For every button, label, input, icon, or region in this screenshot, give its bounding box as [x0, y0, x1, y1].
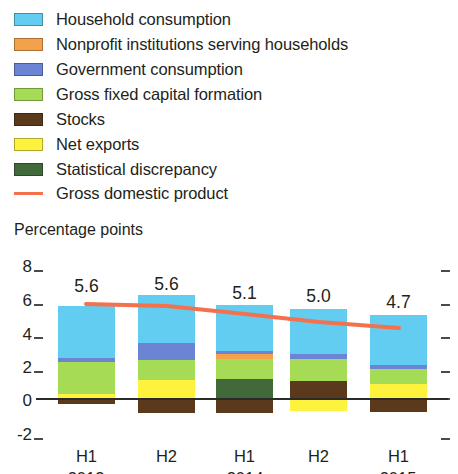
- y-tick-dash-4: [34, 337, 43, 339]
- legend-item-label: Household consumption: [56, 11, 231, 28]
- legend-item-household-consumption: Household consumption: [14, 8, 231, 30]
- bar-segment-household-consumption: [290, 309, 347, 354]
- bar-value-label-h2-2014: 5.0: [290, 288, 347, 306]
- legend-item-label: Statistical discrepancy: [56, 161, 217, 178]
- y-tick-dash-right-4: [441, 337, 450, 339]
- x-tick-label-h2-2014: H2: [290, 448, 347, 465]
- x-tick-label-h2-2013: H2: [138, 448, 195, 465]
- legend-item-gross-fixed-capital-formation: Gross fixed capital formation: [14, 83, 262, 105]
- bar-segment-net-exports: [138, 380, 195, 398]
- y-tick-label-8: 8: [4, 258, 32, 275]
- bar-value-label-h1-2014: 5.1: [216, 285, 273, 303]
- legend-item-statistical-discrepancy: Statistical discrepancy: [14, 158, 217, 180]
- legend-item-stocks: Stocks: [14, 108, 105, 130]
- bar-segment-net-exports: [370, 384, 427, 398]
- bar-value-label-h1-2013: 5.6: [58, 278, 115, 296]
- legend-item-net-exports: Net exports: [14, 133, 139, 155]
- plot-area: 8 6 4 2 0 -2: [0, 248, 458, 474]
- bar-segment-stocks: [370, 398, 427, 412]
- y-tick-dash-2: [34, 371, 43, 373]
- legend-swatch-icon: [14, 63, 43, 76]
- bar-segment-net-exports: [290, 398, 347, 411]
- y-tick-dash-8: [34, 270, 43, 272]
- legend-swatch-icon: [14, 88, 43, 101]
- bar-segment-household-consumption: [138, 295, 195, 343]
- legend-swatch-icon: [14, 138, 43, 151]
- legend-item-label: Stocks: [56, 111, 105, 128]
- y-tick-label-2: 2: [4, 359, 32, 376]
- chart-legend: Household consumption Nonprofit institut…: [0, 0, 458, 205]
- legend-item-label: Net exports: [56, 136, 139, 153]
- x-tick-label-h1-2014: H1: [216, 448, 273, 465]
- bar-segment-gross-fixed-capital-formation: [138, 360, 195, 380]
- legend-item-government-consumption: Government consumption: [14, 58, 243, 80]
- y-tick-dash-minus-2: [34, 438, 43, 440]
- legend-item-label: Government consumption: [56, 61, 243, 78]
- bar-segment-stocks: [216, 398, 273, 413]
- bar-segment-stocks: [290, 381, 347, 398]
- legend-swatch-icon: [14, 163, 43, 176]
- bar-stack-h2-2014: [290, 248, 347, 474]
- x-group-label-2013: 2013: [46, 470, 126, 474]
- y-tick-label-0: 0: [4, 392, 32, 409]
- bar-segment-household-consumption: [58, 306, 115, 358]
- y-axis-title: Percentage points: [14, 222, 143, 238]
- bar-segment-gross-fixed-capital-formation: [216, 359, 273, 379]
- y-tick-label-6: 6: [4, 292, 32, 309]
- bar-stack-h1-2015: [370, 248, 427, 474]
- legend-swatch-icon: [14, 113, 43, 126]
- bar-segment-household-consumption: [216, 305, 273, 351]
- x-tick-label-h1-2013: H1: [58, 448, 115, 465]
- chart-figure: Household consumption Nonprofit institut…: [0, 0, 458, 474]
- legend-item-nonprofit-institutions: Nonprofit institutions serving household…: [14, 33, 348, 55]
- y-tick-label-minus-2: -2: [0, 426, 32, 443]
- bar-segment-gross-fixed-capital-formation: [370, 369, 427, 384]
- bar-value-label-h1-2015: 4.7: [370, 294, 427, 312]
- y-tick-label-4: 4: [4, 326, 32, 343]
- x-tick-label-h1-2015: H1: [370, 448, 427, 465]
- y-tick-dash-6: [34, 304, 43, 306]
- zero-axis-line: [36, 398, 448, 400]
- bar-segment-household-consumption: [370, 315, 427, 365]
- y-tick-dash-right-2: [441, 371, 450, 373]
- bar-segment-gross-fixed-capital-formation: [290, 359, 347, 381]
- bar-segment-stocks: [138, 398, 195, 413]
- y-tick-dash-right-6: [441, 304, 450, 306]
- y-tick-dash-right-minus-2: [441, 438, 450, 440]
- x-group-label-2014: 2014: [205, 470, 285, 474]
- legend-item-gross-domestic-product: Gross domestic product: [14, 182, 228, 204]
- x-group-label-2015: 2015: [358, 470, 438, 474]
- bar-value-label-h2-2013: 5.6: [138, 276, 195, 294]
- bar-stack-h1-2014: [216, 248, 273, 474]
- legend-swatch-icon: [14, 38, 43, 51]
- legend-item-label: Nonprofit institutions serving household…: [56, 36, 348, 53]
- bar-segment-government-consumption: [138, 343, 195, 360]
- legend-item-label: Gross domestic product: [56, 185, 228, 202]
- y-tick-dash-right-8: [441, 270, 450, 272]
- legend-swatch-icon: [14, 13, 43, 26]
- legend-line-icon: [14, 187, 43, 200]
- legend-item-label: Gross fixed capital formation: [56, 86, 262, 103]
- bar-segment-gross-fixed-capital-formation: [58, 362, 115, 394]
- bar-segment-statistical-discrepancy: [216, 379, 273, 398]
